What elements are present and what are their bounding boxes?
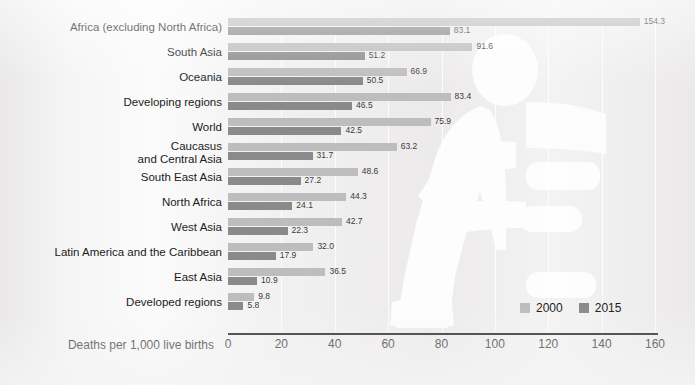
bar-value-label: 42.7 (346, 217, 363, 225)
x-tick-0: 0 (225, 337, 232, 351)
category-label-line: World (0, 121, 222, 134)
bar-value-label: 17.9 (280, 251, 297, 259)
category-label: World (0, 121, 222, 134)
bar-2000[interactable] (228, 118, 431, 126)
bar-2000[interactable] (228, 93, 451, 101)
bar-2015[interactable] (228, 252, 276, 260)
category-label: South East Asia (0, 171, 222, 184)
category-label: Developed regions (0, 296, 222, 309)
bar-row: 75.942.5 (228, 116, 655, 141)
bar-2000[interactable] (228, 218, 342, 226)
legend-item-2000[interactable]: 2000 (520, 301, 563, 315)
bar-value-label: 27.2 (305, 176, 322, 184)
category-label: North Africa (0, 196, 222, 209)
category-label-line: East Asia (0, 271, 222, 284)
category-label: Oceania (0, 71, 222, 84)
bar-row: 91.651.2 (228, 41, 655, 66)
bar-value-label: 63.2 (401, 142, 418, 150)
bar-row: 48.627.2 (228, 166, 655, 191)
bar-value-label: 22.3 (292, 226, 309, 234)
bar-value-label: 32.0 (317, 242, 334, 250)
category-label: Developing regions (0, 96, 222, 109)
bar-value-label: 10.9 (261, 276, 278, 284)
category-label-line: South Asia (0, 46, 222, 59)
category-label-column: Africa (excluding North Africa)South Asi… (0, 16, 222, 332)
bar-value-label: 9.8 (258, 292, 270, 300)
bar-value-label: 36.5 (329, 267, 346, 275)
bar-value-label: 91.6 (476, 42, 493, 50)
legend-swatch-2000 (520, 303, 530, 313)
bar-value-label: 42.5 (345, 126, 362, 134)
bar-2015[interactable] (228, 127, 341, 135)
category-label: Africa (excluding North Africa) (0, 21, 222, 34)
chart-legend: 2000 2015 (520, 301, 621, 315)
bar-2000[interactable] (228, 243, 313, 251)
x-tick-160: 160 (645, 337, 665, 351)
bar-row: 36.510.9 (228, 266, 655, 291)
bar-value-label: 50.5 (367, 76, 384, 84)
bar-2015[interactable] (228, 27, 450, 35)
x-axis-line (228, 333, 658, 335)
bar-row: 42.722.3 (228, 216, 655, 241)
category-label: East Asia (0, 271, 222, 284)
bar-2015[interactable] (228, 52, 365, 60)
category-label-line: Oceania (0, 71, 222, 84)
bar-2015[interactable] (228, 227, 288, 235)
bar-value-label: 31.7 (317, 151, 334, 159)
category-label: Caucasusand Central Asia (0, 140, 222, 166)
category-label-line: Caucasus (0, 140, 222, 153)
x-tick-40: 40 (328, 337, 341, 351)
legend-label-2000: 2000 (536, 301, 563, 315)
bar-value-label: 5.8 (247, 301, 259, 309)
bar-value-label: 48.6 (362, 167, 379, 175)
bar-value-label: 83.4 (455, 92, 472, 100)
bar-2015[interactable] (228, 77, 363, 85)
chart-container: Africa (excluding North Africa)South Asi… (0, 0, 695, 385)
category-label: Latin America and the Caribbean (0, 246, 222, 259)
category-label-line: West Asia (0, 221, 222, 234)
category-label-line: South East Asia (0, 171, 222, 184)
legend-item-2015[interactable]: 2015 (579, 301, 622, 315)
bar-row: 83.446.5 (228, 91, 655, 116)
x-tick-80: 80 (435, 337, 448, 351)
x-tick-20: 20 (275, 337, 288, 351)
bar-value-label: 46.5 (356, 101, 373, 109)
bar-2000[interactable] (228, 43, 472, 51)
bar-2015[interactable] (228, 102, 352, 110)
bar-2015[interactable] (228, 202, 292, 210)
bar-value-label: 51.2 (369, 51, 386, 59)
bar-value-label: 24.1 (296, 201, 313, 209)
legend-label-2015: 2015 (595, 301, 622, 315)
bar-value-label: 66.9 (411, 67, 428, 75)
bar-row: 154.383.1 (228, 16, 655, 41)
bar-2015[interactable] (228, 302, 243, 310)
x-tick-100: 100 (485, 337, 505, 351)
bar-row: 63.231.7 (228, 141, 655, 166)
legend-swatch-2015 (579, 303, 589, 313)
gridline-160 (655, 16, 656, 332)
x-tick-140: 140 (592, 337, 612, 351)
category-label-line: Latin America and the Caribbean (0, 246, 222, 259)
x-axis-tick-labels: 020406080100120140160 (0, 337, 695, 359)
bar-2000[interactable] (228, 168, 358, 176)
bar-value-label: 44.3 (350, 192, 367, 200)
bar-row: 44.324.1 (228, 191, 655, 216)
bar-2000[interactable] (228, 193, 346, 201)
bar-row: 66.950.5 (228, 66, 655, 91)
category-label-line: and Central Asia (0, 153, 222, 166)
bar-2015[interactable] (228, 277, 257, 285)
bar-2015[interactable] (228, 177, 301, 185)
bar-value-label: 75.9 (435, 117, 452, 125)
bar-row: 32.017.9 (228, 241, 655, 266)
category-label-line: North Africa (0, 196, 222, 209)
plot-area: 154.383.191.651.266.950.583.446.575.942.… (228, 16, 655, 332)
category-label: South Asia (0, 46, 222, 59)
category-label-line: Developed regions (0, 296, 222, 309)
x-tick-60: 60 (381, 337, 394, 351)
x-tick-120: 120 (538, 337, 558, 351)
bar-2000[interactable] (228, 18, 640, 26)
category-label-line: Developing regions (0, 96, 222, 109)
bar-2000[interactable] (228, 143, 397, 151)
bar-2015[interactable] (228, 152, 313, 160)
bar-value-label: 154.3 (644, 17, 665, 25)
